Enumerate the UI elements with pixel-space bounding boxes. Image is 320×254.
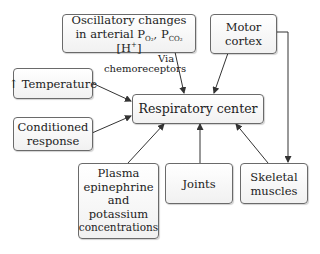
temperature-box: ↑ Temperature	[13, 68, 93, 99]
edge-temperature-to-center	[92, 83, 131, 101]
joints-box: Joints	[165, 163, 233, 204]
skeletal-muscles-box: Skeletal muscles	[240, 163, 308, 204]
plasma-line-3: and	[108, 194, 130, 208]
conditioned-line-1: Conditioned	[18, 120, 89, 134]
plasma-box: Plasma epinephrine and potassium concent…	[78, 163, 159, 239]
joints-label: Joints	[182, 177, 215, 191]
plasma-line-2: epinephrine	[83, 181, 153, 195]
oscillatory-line-2: in arterial PO₂, PCO₂ [H+]	[63, 27, 195, 55]
oscillatory-line-1: Oscillatory changes	[71, 13, 186, 27]
respiratory-center-box: Respiratory center	[132, 94, 264, 124]
plasma-line-5: concentrations	[79, 221, 158, 235]
conditioned-line-2: response	[27, 134, 80, 148]
plasma-line-1: Plasma	[98, 167, 140, 181]
plasma-line-4: potassium	[89, 208, 149, 222]
motor-cortex-box: Motor cortex	[210, 14, 277, 54]
edge-skeletal-to-center	[236, 124, 268, 163]
edge-motor-to-center	[214, 53, 228, 93]
up-arrow-icon: ↑	[9, 77, 19, 91]
skeletal-line-2: muscles	[250, 184, 297, 198]
edge-motor-to-skeletal	[277, 32, 288, 162]
motor-cortex-line-1: Motor	[226, 20, 262, 34]
oscillatory-changes-box: Oscillatory changes in arterial PO₂, PCO…	[62, 14, 196, 53]
motor-cortex-line-2: cortex	[225, 34, 262, 48]
conditioned-response-box: Conditioned response	[13, 117, 93, 151]
edge-plasma-to-center	[128, 124, 164, 163]
chemoreceptors-label: chemoreceptors	[104, 63, 186, 75]
temperature-label: Temperature	[22, 77, 97, 91]
skeletal-line-1: Skeletal	[250, 170, 297, 184]
respiratory-center-label: Respiratory center	[138, 102, 257, 116]
edge-conditioned-to-center	[92, 116, 131, 133]
